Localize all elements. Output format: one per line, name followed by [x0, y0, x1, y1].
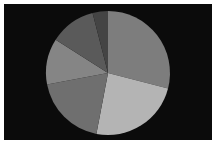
chart-caption: [0, 140, 216, 148]
pie-chart: [4, 4, 212, 140]
chart-frame: [4, 4, 212, 140]
